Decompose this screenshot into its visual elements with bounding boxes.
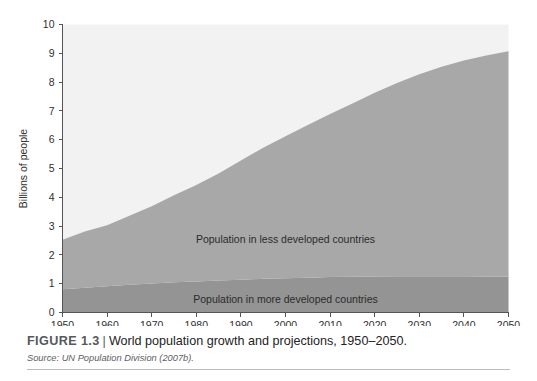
caption-divider [27, 369, 510, 370]
y-axis-title-group: Billions of people [17, 129, 29, 209]
y-tick-label: 8 [49, 76, 55, 88]
y-tick-label: 7 [49, 105, 55, 117]
figure-caption: FIGURE 1.3|World population growth and p… [27, 334, 522, 350]
y-tick-label: 9 [49, 47, 55, 59]
y-tick-label: 5 [49, 162, 55, 174]
x-tick-label: 2050 [497, 319, 521, 327]
y-tick-label: 10 [43, 18, 55, 30]
y-tick-label: 6 [49, 133, 55, 145]
source-label: Source: [27, 353, 59, 363]
y-tick-label: 3 [49, 220, 55, 232]
y-tick-label: 4 [49, 191, 55, 203]
chart-area: 0123456789101950196019701980199020002010… [0, 0, 537, 326]
y-axis-title: Billions of people [17, 129, 29, 209]
x-tick-label: 1960 [95, 319, 119, 327]
x-tick-label: 1970 [140, 319, 164, 327]
series-annotation-label: Population in more developed countries [193, 293, 377, 305]
x-tick-label: 1980 [185, 319, 209, 327]
figure-separator: | [100, 334, 109, 348]
x-tick-label: 2010 [318, 319, 342, 327]
x-tick-label: 2040 [452, 319, 476, 327]
population-stacked-area-chart: 0123456789101950196019701980199020002010… [0, 0, 537, 326]
figure-title: World population growth and projections,… [109, 334, 407, 348]
x-tick-label: 2030 [408, 319, 432, 327]
y-tick-label: 1 [49, 277, 55, 289]
y-tick-label: 2 [49, 249, 55, 261]
figure-container: 0123456789101950196019701980199020002010… [0, 0, 537, 381]
figure-source: Source: UN Population Division (2007b). [27, 353, 194, 363]
y-tick-label: 0 [49, 306, 55, 318]
x-tick-label: 2020 [363, 319, 387, 327]
source-text: UN Population Division (2007b). [62, 353, 194, 363]
series-annotation-label: Population in less developed countries [196, 233, 375, 245]
figure-number: FIGURE 1.3 [27, 334, 100, 348]
caption-block: FIGURE 1.3|World population growth and p… [0, 328, 537, 381]
x-tick-label: 1950 [51, 319, 75, 327]
x-tick-label: 1990 [229, 319, 253, 327]
x-tick-label: 2000 [274, 319, 298, 327]
